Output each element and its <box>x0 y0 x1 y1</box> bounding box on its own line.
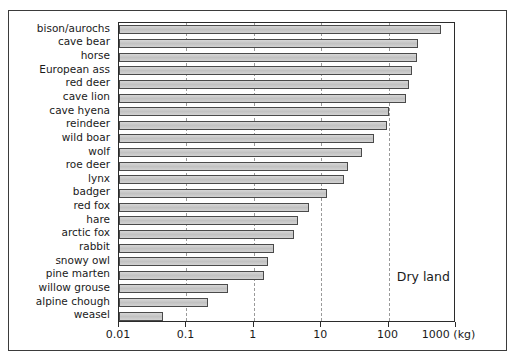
category-label: alpine chough <box>36 296 110 306</box>
bar-fill <box>119 107 389 116</box>
bar-fill <box>119 271 264 280</box>
x-tick-label: 0.01 <box>106 328 131 341</box>
category-label: weasel <box>74 309 110 319</box>
bar-fill <box>119 284 228 293</box>
dry-land-annotation: Dry land <box>397 269 450 284</box>
x-tick-mark <box>185 322 186 327</box>
bar <box>119 94 406 103</box>
bar-fill <box>119 257 268 266</box>
x-axis: 0.010.11101001000 (kg) <box>0 322 517 352</box>
bar <box>119 203 309 212</box>
category-label: lynx <box>88 173 110 183</box>
bar <box>119 134 374 143</box>
category-label: European ass <box>39 64 110 74</box>
category-label: horse <box>81 50 110 60</box>
bar-fill <box>119 53 417 62</box>
bar-fill <box>119 66 412 75</box>
bar-fill <box>119 203 309 212</box>
category-label: reindeer <box>66 118 110 128</box>
category-label: wild boar <box>62 132 110 142</box>
bar-fill <box>119 189 327 198</box>
category-label: cave bear <box>58 36 110 46</box>
category-label: pine marten <box>46 268 110 278</box>
bar-fill <box>119 39 418 48</box>
category-label: red deer <box>66 77 110 87</box>
bar-fill <box>119 230 294 239</box>
bar <box>119 284 228 293</box>
category-label: hare <box>86 214 110 224</box>
x-tick-label: 100 <box>377 328 398 341</box>
bar-fill <box>119 148 362 157</box>
chart-figure: bison/aurochscave bearhorseEuropean assr… <box>0 0 517 362</box>
category-label: roe deer <box>66 159 110 169</box>
x-tick-mark <box>253 322 254 327</box>
bar <box>119 121 387 130</box>
x-tick-label: 1 <box>249 328 256 341</box>
category-label: willow grouse <box>39 282 110 292</box>
bar <box>119 189 327 198</box>
bar-fill <box>119 175 344 184</box>
category-label: snowy owl <box>55 255 110 265</box>
bar-fill <box>119 80 409 89</box>
category-label: wolf <box>88 146 110 156</box>
bar-fill <box>119 244 274 253</box>
x-tick-label: 1000 (kg) <box>422 328 475 341</box>
bar <box>119 53 417 62</box>
bar <box>119 298 208 307</box>
bar <box>119 244 274 253</box>
bar <box>119 66 412 75</box>
bar <box>119 148 362 157</box>
bar-fill <box>119 162 348 171</box>
category-axis-labels: bison/aurochscave bearhorseEuropean assr… <box>0 22 114 322</box>
category-label: cave hyena <box>49 105 110 115</box>
bar-fill <box>119 312 163 321</box>
bar-fill <box>119 216 298 225</box>
bar-fill <box>119 134 374 143</box>
x-tick-mark <box>118 322 119 327</box>
category-label: cave lion <box>63 91 110 101</box>
category-label: badger <box>73 186 110 196</box>
bar <box>119 216 298 225</box>
plot-area: Dry land <box>118 22 455 322</box>
bar-fill <box>119 94 406 103</box>
bar <box>119 80 409 89</box>
category-label: red fox <box>73 200 110 210</box>
bar-fill <box>119 121 387 130</box>
bar <box>119 312 163 321</box>
bar <box>119 107 389 116</box>
bar <box>119 39 418 48</box>
category-label: rabbit <box>79 241 110 251</box>
bar <box>119 25 441 34</box>
x-tick-mark <box>455 322 456 327</box>
bar <box>119 175 344 184</box>
category-label: arctic fox <box>62 227 110 237</box>
bar <box>119 257 268 266</box>
bar-fill <box>119 298 208 307</box>
x-tick-mark <box>320 322 321 327</box>
bar-fill <box>119 25 441 34</box>
x-tick-label: 0.1 <box>177 328 195 341</box>
x-tick-label: 10 <box>313 328 327 341</box>
bar <box>119 230 294 239</box>
bar <box>119 162 348 171</box>
bar <box>119 271 264 280</box>
x-tick-mark <box>388 322 389 327</box>
category-label: bison/aurochs <box>37 23 110 33</box>
